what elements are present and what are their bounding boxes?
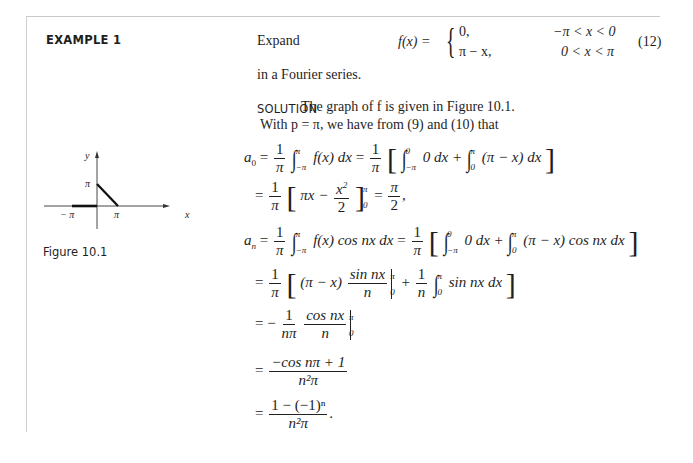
integral-sign: ∫	[292, 149, 297, 169]
integrand: 0 dx +	[423, 149, 462, 165]
denominator: π	[271, 284, 279, 300]
left-bracket: [	[429, 225, 439, 258]
denominator: π	[276, 159, 284, 175]
right-bracket: ]	[545, 142, 555, 175]
fraction-cos-over-n: cos nxn	[304, 308, 346, 341]
y-axis-label: y	[85, 150, 89, 161]
numerator: 1	[274, 225, 286, 242]
eq-an-line3: = − 1nπ cos nxnπ0	[255, 308, 357, 341]
fraction-pi-over-2: π2	[388, 180, 400, 213]
equals: =	[260, 149, 268, 165]
denominator: π	[271, 197, 279, 213]
top-rule	[27, 16, 660, 17]
evaluation-limits: π0	[390, 268, 395, 300]
expand-text: Expand	[257, 33, 300, 49]
integrand: (π − x) dx	[482, 149, 542, 165]
y-axis-arrow-icon	[95, 151, 99, 158]
an-subscript: n	[252, 241, 257, 251]
integral-limits: π−π	[296, 226, 307, 258]
x-tick-neg-pi: − π	[60, 209, 74, 220]
upper-limit: π	[390, 268, 395, 284]
left-bracket: [	[286, 180, 296, 213]
numerator: π	[388, 180, 400, 197]
a0-subscript: 0	[252, 158, 257, 168]
numerator: sin nx	[348, 267, 387, 284]
brace: {	[446, 20, 456, 62]
numerator: x2	[334, 178, 349, 199]
eq-an-line5: = 1 − (−1)ⁿn²π.	[255, 398, 333, 431]
x-tick-pi: π	[114, 209, 119, 220]
denominator: 2	[338, 199, 346, 215]
integrand: f(x) cos nx dx	[313, 232, 393, 248]
graph-segment-linear	[97, 184, 118, 206]
equals: =	[356, 149, 364, 165]
fraction-final-result: 1 − (−1)ⁿn²π	[269, 398, 327, 431]
integral-sign: ∫	[402, 149, 407, 169]
fraction-one-over-pi: 1π	[370, 142, 382, 175]
denominator: π	[413, 242, 421, 258]
fraction-one-over-npi: 1nπ	[281, 308, 296, 341]
equals: =	[255, 274, 263, 290]
x-axis-label: x	[185, 209, 189, 220]
equals: =	[397, 232, 405, 248]
upper-limit: π	[363, 181, 368, 197]
left-margin-rule	[26, 16, 27, 432]
figure-caption: Figure 10.1	[43, 245, 107, 259]
numerator: 1	[274, 142, 286, 159]
equals: =	[260, 232, 268, 248]
denominator: π	[276, 242, 284, 258]
denominator: n	[321, 325, 329, 341]
equals: =	[255, 187, 263, 203]
period: .	[329, 405, 333, 421]
integral-sign: ∫	[443, 232, 448, 252]
case1-condition: −π < x < 0	[553, 24, 616, 40]
solution-line1: The graph of f is given in Figure 10.1.	[301, 99, 515, 115]
case1-value: 0,	[459, 24, 470, 40]
fraction-sin-over-n: sin nxn	[348, 267, 387, 300]
comma: ,	[402, 187, 406, 203]
numerator: 1 − (−1)ⁿ	[269, 398, 327, 415]
numerator: 1	[269, 180, 281, 197]
lower-limit: −π	[296, 242, 307, 258]
plus: +	[401, 274, 409, 290]
eq-an-line2: = 1π [ (π − x) sin nxnπ0 + 1n ∫π0 sin nx…	[255, 267, 516, 300]
equals-minus: = −	[255, 315, 276, 331]
numerator: 1	[283, 308, 295, 325]
intro-continuation: in a Fourier series.	[257, 67, 361, 83]
an-symbol: a	[244, 232, 252, 248]
upper-limit: π	[296, 226, 307, 242]
fraction-x2-over-2: x22	[334, 178, 349, 215]
eq-a0-line1: a0 = 1π ∫π−π f(x) dx = 1π [ ∫0−π 0 dx + …	[244, 142, 555, 175]
integrand: 0 dx +	[464, 232, 503, 248]
numerator: 1	[269, 267, 281, 284]
numerator: cos nx	[304, 308, 346, 325]
upper-limit: π	[349, 309, 354, 325]
denominator: nπ	[281, 325, 296, 341]
solution-line2: With p = π, we have from (9) and (10) th…	[260, 117, 499, 133]
integral-sign: ∫	[508, 232, 513, 252]
numerator: 1	[370, 142, 382, 159]
equals: =	[374, 187, 382, 203]
expression: (π − x)	[300, 274, 342, 290]
fraction-result: −cos nπ + 1n²π	[269, 355, 347, 388]
x-axis-arrow-icon	[163, 204, 170, 208]
lower-limit: −π	[296, 159, 307, 175]
x-var: x	[336, 181, 343, 197]
lower-limit: 0	[363, 197, 368, 213]
left-bracket: [	[286, 267, 296, 300]
equals: =	[255, 362, 263, 378]
case2-condition: 0 < x < π	[561, 44, 614, 60]
eq-a0-line2: = 1π [ πx − x22 ]π0 = π2,	[255, 178, 406, 215]
fraction-one-over-pi: 1π	[274, 142, 286, 175]
equation-number: (12)	[638, 34, 661, 50]
integral-sign: ∫	[292, 232, 297, 252]
integral-sign: ∫	[434, 274, 439, 294]
lower-limit: 0	[349, 325, 354, 341]
numerator: −cos nπ + 1	[269, 355, 347, 372]
eq-an-line4: = −cos nπ + 1n²π	[255, 355, 349, 388]
fraction-one-over-n: 1n	[416, 267, 428, 300]
example-label: EXAMPLE 1	[46, 33, 121, 47]
integrand: f(x) dx	[313, 149, 352, 165]
left-bracket: [	[387, 142, 397, 175]
fraction-one-over-pi: 1π	[269, 267, 281, 300]
